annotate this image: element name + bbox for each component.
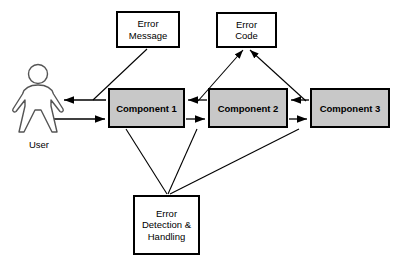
node-component-3[interactable]: Component 3: [310, 88, 390, 128]
diagram-canvas: User Error Message Error Code Component …: [0, 0, 414, 265]
node-error-detection-handling-label: Error Detection & Handling: [140, 208, 193, 243]
node-error-code-label: Error Code: [233, 19, 260, 42]
node-component-1-label: Component 1: [114, 103, 179, 114]
node-error-code[interactable]: Error Code: [216, 12, 277, 48]
node-error-message-label: Error Message: [127, 18, 170, 41]
node-component-1[interactable]: Component 1: [108, 88, 185, 128]
node-error-detection-handling[interactable]: Error Detection & Handling: [133, 195, 200, 255]
node-component-3-label: Component 3: [318, 103, 383, 114]
edge-comp1-to-errordetection: [126, 129, 167, 194]
node-component-2-label: Component 2: [216, 103, 281, 114]
user-label: User: [8, 139, 70, 150]
edge-comp2-to-errordetection: [168, 129, 197, 194]
node-component-2[interactable]: Component 2: [208, 88, 288, 128]
edge-comp3-to-errordetection: [170, 129, 299, 194]
node-error-message[interactable]: Error Message: [116, 11, 180, 48]
user-person-icon: [8, 62, 70, 134]
